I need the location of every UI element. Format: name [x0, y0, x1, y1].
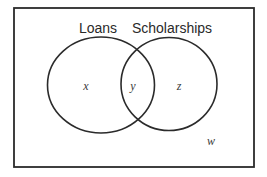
loans-label: Loans — [79, 20, 117, 36]
region-scholarships-only-label: z — [176, 79, 182, 93]
venn-diagram: Loans Scholarships x y z w — [0, 0, 267, 177]
region-both-label: y — [129, 79, 136, 93]
region-loans-only-label: x — [82, 79, 89, 93]
region-neither-label: w — [207, 134, 215, 148]
scholarships-label: Scholarships — [132, 20, 212, 36]
loans-circle — [48, 37, 155, 133]
